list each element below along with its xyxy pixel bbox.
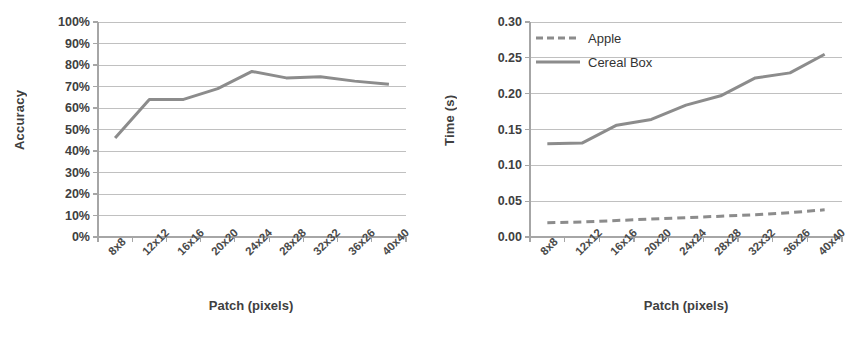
legend-label-apple: Apple — [588, 31, 621, 46]
legend-label-cereal-box: Cereal Box — [588, 55, 652, 70]
time-chart-panel: Time (s) 0.000.050.100.150.200.250.30 Ap… — [430, 0, 861, 342]
apple-line-swatch-icon — [536, 32, 580, 44]
data-series-line — [547, 210, 824, 223]
accuracy-plot-area — [0, 0, 430, 342]
time-chart-legend: Apple Cereal Box — [536, 28, 652, 76]
time-x-axis-title: Patch (pixels) — [526, 298, 846, 313]
legend-item-cereal-box[interactable]: Cereal Box — [536, 52, 652, 72]
accuracy-chart-panel: Accuracy 0%10%20%30%40%50%60%70%80%90%10… — [0, 0, 430, 342]
cereal-box-line-swatch-icon — [536, 56, 580, 68]
data-series-line — [115, 71, 389, 138]
accuracy-x-axis-title: Patch (pixels) — [96, 298, 406, 313]
legend-item-apple[interactable]: Apple — [536, 28, 652, 48]
figure-container: Accuracy 0%10%20%30%40%50%60%70%80%90%10… — [0, 0, 861, 342]
